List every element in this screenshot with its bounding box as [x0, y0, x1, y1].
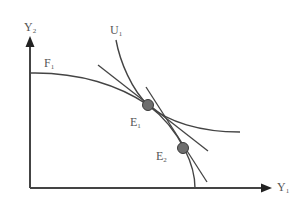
point-e1 — [143, 100, 154, 111]
economics-diagram: Y2 Y1 F1 U1 E1 E2 — [0, 0, 308, 204]
point-e1-label: E1 — [130, 116, 141, 130]
frontier-label-subscript: 1 — [51, 63, 55, 71]
x-axis-label: Y1 — [277, 181, 289, 195]
point-e2-label: E2 — [156, 150, 167, 164]
indifference-label: U1 — [110, 24, 122, 38]
x-axis-label-text: Y — [277, 180, 286, 194]
diagram-canvas — [0, 0, 308, 204]
y-axis-label-subscript: 2 — [33, 27, 37, 35]
y-axis-label-text: Y — [24, 20, 33, 34]
price-line-e2 — [146, 87, 207, 182]
point-e2 — [178, 143, 189, 154]
point-e1-label-subscript: 1 — [137, 122, 141, 130]
frontier-label: F1 — [44, 57, 54, 71]
x-axis-arrow-icon — [261, 184, 272, 193]
point-e2-label-subscript: 2 — [163, 156, 167, 164]
y-axis-arrow-icon — [26, 36, 35, 47]
frontier-curve-f1 — [30, 73, 195, 188]
indifference-label-text: U — [110, 23, 119, 37]
y-axis-label: Y2 — [24, 21, 36, 35]
indifference-label-subscript: 1 — [119, 30, 123, 38]
x-axis-label-subscript: 1 — [286, 187, 290, 195]
frontier-label-text: F — [44, 56, 51, 70]
